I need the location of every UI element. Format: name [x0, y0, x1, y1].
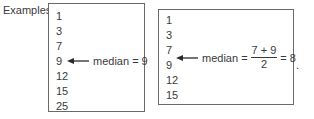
value: 9 [166, 60, 172, 71]
median-label: median = [202, 52, 248, 64]
median-result: = 8 [280, 52, 296, 64]
arrow-left-icon [67, 57, 89, 65]
value: 7 [56, 41, 62, 52]
value: 3 [166, 30, 172, 41]
examples-label: Examples: [3, 4, 54, 16]
value: 1 [166, 15, 172, 26]
numerator: 7 + 9 [251, 44, 278, 58]
example-even-box: 1 3 7 9 12 15 median = 7 + 9 2 = 8 [158, 9, 294, 105]
value: 25 [56, 101, 68, 112]
value: 12 [166, 75, 178, 86]
example-odd-box: 1 3 7 9 12 15 25 median = 9 [48, 3, 145, 112]
value: 7 [166, 45, 172, 56]
value: 3 [56, 26, 62, 37]
fraction: 7 + 9 2 [251, 44, 278, 71]
value: 9 [56, 56, 62, 67]
denominator: 2 [261, 58, 267, 71]
trailing-period: . [296, 59, 299, 71]
value: 15 [166, 90, 178, 101]
value: 12 [56, 71, 68, 82]
arrow-left-icon [176, 54, 198, 62]
value: 15 [56, 86, 68, 97]
median-annotation: median = 9 [93, 55, 148, 67]
value: 1 [56, 11, 62, 22]
